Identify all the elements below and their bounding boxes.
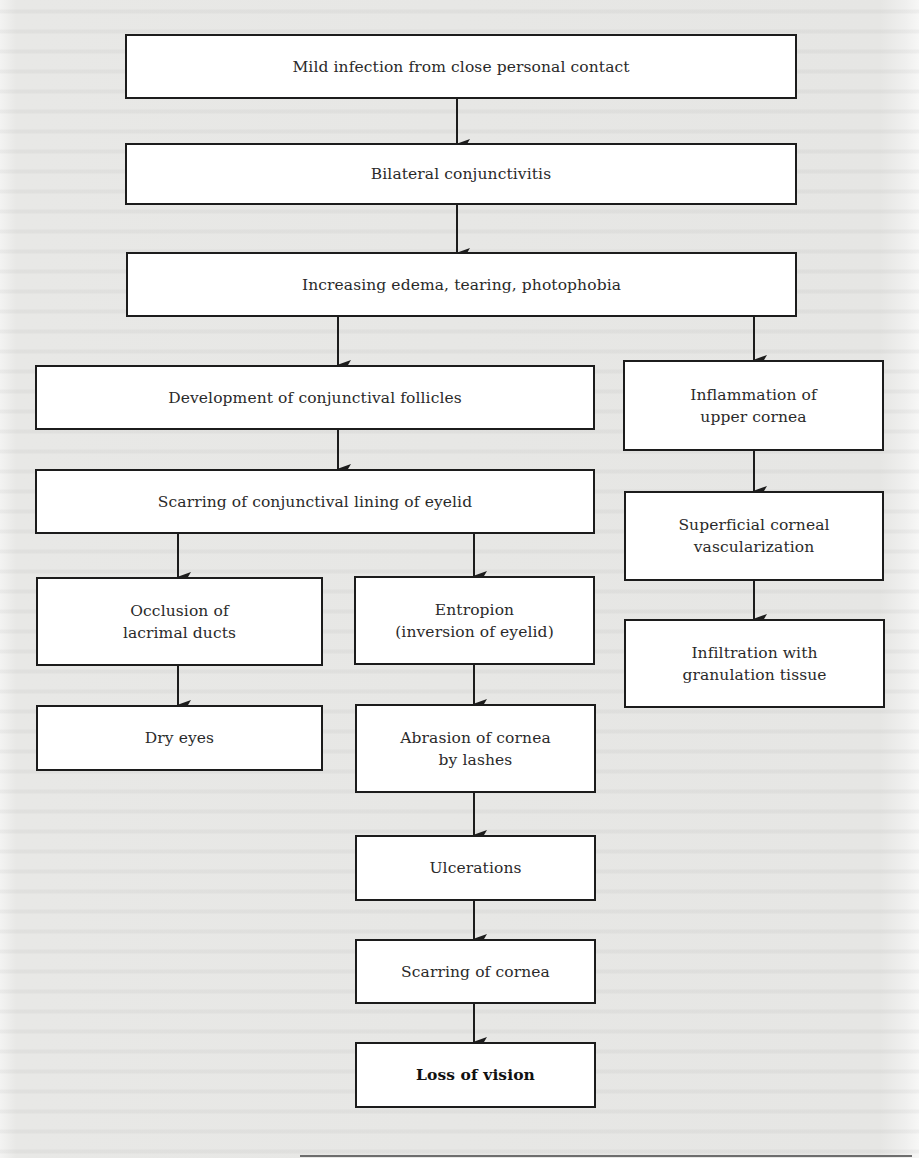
node-label-line2: lacrimal ducts bbox=[123, 624, 236, 642]
node-occlusion-lacrimal-ducts: Occlusion of lacrimal ducts bbox=[36, 577, 323, 666]
node-scarring-conjunctival-lining: Scarring of conjunctival lining of eyeli… bbox=[35, 469, 595, 534]
node-inflammation-upper-cornea: Inflammation of upper cornea bbox=[623, 360, 884, 451]
node-label-line1: Inflammation of bbox=[690, 386, 817, 404]
page-bottom-rule bbox=[300, 1155, 912, 1157]
node-label: Dry eyes bbox=[139, 727, 220, 749]
node-conjunctival-follicles: Development of conjunctival follicles bbox=[35, 365, 595, 430]
node-label-line2: (inversion of eyelid) bbox=[395, 623, 554, 641]
node-loss-of-vision: Loss of vision bbox=[355, 1042, 596, 1108]
node-bilateral-conjunctivitis: Bilateral conjunctivitis bbox=[125, 143, 797, 205]
node-infiltration-granulation-tissue: Infiltration with granulation tissue bbox=[624, 619, 885, 708]
node-label-line2: by lashes bbox=[439, 751, 513, 769]
node-label: Increasing edema, tearing, photophobia bbox=[296, 274, 627, 296]
node-label-line1: Infiltration with bbox=[691, 644, 817, 662]
node-dry-eyes: Dry eyes bbox=[36, 705, 323, 771]
node-label: Scarring of conjunctival lining of eyeli… bbox=[152, 491, 478, 513]
node-label: Scarring of cornea bbox=[395, 961, 556, 983]
node-label: Mild infection from close personal conta… bbox=[286, 56, 635, 78]
node-label: Loss of vision bbox=[410, 1064, 541, 1086]
node-label-line1: Entropion bbox=[435, 601, 514, 619]
node-abrasion-cornea: Abrasion of cornea by lashes bbox=[355, 704, 596, 793]
node-mild-infection: Mild infection from close personal conta… bbox=[125, 34, 797, 99]
node-label: Ulcerations bbox=[423, 857, 527, 879]
node-increasing-edema: Increasing edema, tearing, photophobia bbox=[126, 252, 797, 317]
node-label-line2: upper cornea bbox=[700, 408, 806, 426]
node-ulcerations: Ulcerations bbox=[355, 835, 596, 901]
node-entropion: Entropion (inversion of eyelid) bbox=[354, 576, 595, 665]
node-label-line2: vascularization bbox=[694, 538, 815, 556]
node-scarring-cornea: Scarring of cornea bbox=[355, 939, 596, 1004]
node-label: Bilateral conjunctivitis bbox=[365, 163, 557, 185]
node-label-line1: Superficial corneal bbox=[678, 516, 829, 534]
node-label-line2: granulation tissue bbox=[682, 666, 826, 684]
node-label-line1: Abrasion of cornea bbox=[400, 729, 551, 747]
node-label-line1: Occlusion of bbox=[130, 602, 228, 620]
node-label: Development of conjunctival follicles bbox=[162, 387, 468, 409]
node-superficial-corneal-vascularization: Superficial corneal vascularization bbox=[624, 491, 884, 581]
